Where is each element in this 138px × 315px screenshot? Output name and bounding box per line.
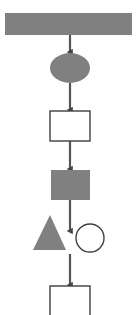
process-box-2-shape — [50, 286, 90, 315]
process-box-1-shape — [50, 111, 90, 141]
triangle-node-shape — [33, 215, 66, 250]
circle-node-shape — [76, 224, 104, 252]
filled-box-shape — [51, 170, 90, 200]
flowchart-svg — [0, 0, 138, 315]
flowchart-canvas — [0, 0, 138, 315]
ellipse-node-shape — [50, 53, 90, 83]
top-bar-shape — [5, 13, 132, 35]
